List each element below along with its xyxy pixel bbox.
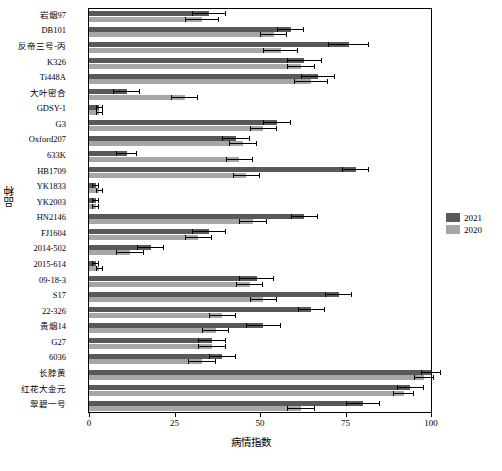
error-bar-2021-5 — [113, 89, 140, 94]
bar-2020-19 — [89, 313, 222, 318]
y-tick-label-1: DB101 — [41, 26, 66, 35]
bar-2020-18 — [89, 297, 263, 302]
y-tick-label-25: 翠碧一号 — [30, 400, 66, 409]
y-tick-label-14: FJ1604 — [41, 229, 66, 238]
y-axis-title: 品种 — [2, 185, 17, 207]
bar-2020-7 — [89, 126, 263, 131]
error-bar-2020-10 — [233, 173, 260, 178]
legend-label-2020: 2020 — [464, 225, 482, 235]
x-axis-title: 病情指数 — [0, 434, 502, 449]
y-tick-label-16: 2015-614 — [33, 260, 66, 269]
bar-2020-21 — [89, 344, 212, 349]
x-tick-4 — [431, 413, 432, 417]
bar-2021-25 — [89, 401, 363, 406]
bar-2020-10 — [89, 173, 246, 178]
legend-item-2021: 2021 — [446, 212, 482, 223]
bar-2021-20 — [89, 323, 263, 328]
bar-2020-2 — [89, 48, 281, 53]
error-bar-2020-15 — [116, 250, 143, 255]
bar-2021-10 — [89, 167, 356, 172]
y-tick-label-12: YK2003 — [37, 198, 66, 207]
error-bar-2021-13 — [291, 214, 318, 219]
error-bar-2020-9 — [226, 157, 253, 162]
error-bar-2020-7 — [250, 126, 277, 131]
bar-2020-25 — [89, 406, 301, 411]
bar-2020-13 — [89, 219, 253, 224]
x-tick-label-1: 25 — [160, 418, 190, 428]
y-tick-label-23: 长脖黄 — [39, 369, 66, 378]
error-bar-2020-25 — [287, 406, 314, 411]
error-bar-2020-2 — [263, 48, 297, 53]
bar-2021-18 — [89, 292, 339, 297]
bar-2020-4 — [89, 79, 311, 84]
error-bar-2021-17 — [239, 276, 273, 281]
y-tick-label-5: 大叶密合 — [30, 89, 66, 98]
error-bar-2021-8 — [222, 136, 249, 141]
bar-2021-2 — [89, 42, 349, 47]
error-bar-2020-1 — [260, 32, 287, 37]
y-tick-label-4: Ti448A — [40, 73, 66, 82]
x-tick-label-0: 0 — [74, 418, 104, 428]
legend-item-2020: 2020 — [446, 224, 482, 235]
error-bar-2021-23 — [421, 370, 442, 375]
plot-area — [88, 8, 432, 413]
error-bar-2020-18 — [250, 297, 277, 302]
error-bar-2021-22 — [209, 354, 236, 359]
bar-2021-19 — [89, 307, 311, 312]
error-bar-2020-16 — [96, 266, 103, 271]
bar-2020-24 — [89, 391, 404, 396]
error-bar-2020-13 — [239, 219, 266, 224]
legend-swatch-2020 — [446, 225, 460, 234]
y-tick-label-11: YK1833 — [37, 182, 66, 191]
error-bar-2020-23 — [414, 375, 435, 380]
bar-2021-1 — [89, 27, 291, 32]
error-bar-2020-8 — [229, 141, 256, 146]
error-bar-2021-25 — [346, 401, 380, 406]
error-bar-2020-17 — [236, 282, 263, 287]
x-tick-label-3: 75 — [331, 418, 361, 428]
error-bar-2021-14 — [192, 229, 226, 234]
x-tick-2 — [260, 413, 261, 417]
bar-2021-3 — [89, 58, 304, 63]
error-bar-2020-12 — [92, 204, 99, 209]
y-tick-label-17: 09-18-3 — [39, 276, 66, 285]
bar-2021-23 — [89, 370, 431, 375]
error-bar-2021-18 — [325, 292, 352, 297]
y-tick-label-15: 2014-502 — [33, 244, 66, 253]
bar-2021-22 — [89, 354, 222, 359]
y-tick-label-13: HN2146 — [37, 213, 66, 222]
error-bar-2021-4 — [301, 74, 335, 79]
bar-2021-24 — [89, 385, 410, 390]
error-bar-2021-3 — [287, 58, 321, 63]
x-tick-label-4: 100 — [416, 418, 446, 428]
error-bar-2021-7 — [263, 120, 290, 125]
y-tick-label-20: 贵烟14 — [40, 322, 67, 331]
y-tick-label-7: G3 — [56, 120, 66, 129]
bar-2020-22 — [89, 359, 202, 364]
y-tick-label-6: GDSY-1 — [37, 104, 66, 113]
bar-2021-8 — [89, 136, 236, 141]
error-bar-2021-24 — [397, 385, 424, 390]
error-bar-2021-20 — [246, 323, 280, 328]
error-bar-2021-15 — [137, 245, 164, 250]
legend-swatch-2021 — [446, 213, 460, 222]
y-tick-label-10: HB1709 — [37, 167, 66, 176]
error-bar-2020-19 — [209, 313, 236, 318]
y-tick-label-0: 岩烟97 — [40, 11, 67, 20]
x-tick-label-2: 50 — [245, 418, 275, 428]
y-tick-label-21: G27 — [51, 338, 66, 347]
error-bar-2020-14 — [185, 235, 212, 240]
bar-2021-7 — [89, 120, 277, 125]
bar-2020-3 — [89, 64, 301, 69]
y-tick-label-8: Oxford207 — [29, 135, 66, 144]
error-bar-2020-11 — [96, 188, 103, 193]
error-bar-2021-19 — [298, 307, 325, 312]
bar-2020-8 — [89, 141, 243, 146]
error-bar-2021-2 — [328, 42, 369, 47]
error-bar-2020-0 — [185, 17, 219, 22]
bar-2020-9 — [89, 157, 239, 162]
error-bar-2020-4 — [294, 79, 328, 84]
bar-2021-4 — [89, 74, 318, 79]
y-tick-label-24: 红花大金元 — [21, 385, 66, 394]
error-bar-2021-16 — [92, 261, 99, 266]
